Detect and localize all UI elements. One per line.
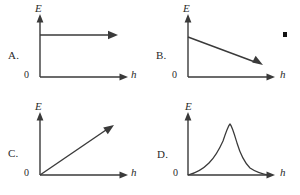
panel-d-plot [0,0,300,195]
panel-d-y-arrowhead [185,112,192,121]
panel-d-x-axis [188,172,275,179]
panel-d-series-resonance [188,124,268,175]
panel-d-y-axis [185,112,192,175]
